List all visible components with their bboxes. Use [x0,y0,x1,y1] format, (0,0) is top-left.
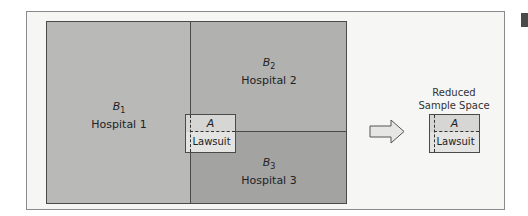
region-b3-symbol: B3 [209,156,329,174]
event-a-lower: Lawsuit [186,132,235,152]
event-a-symbol: A [186,115,235,132]
region-b1-symbol: B1 [59,100,179,118]
page-edge-tab [521,13,528,27]
right-arrow-icon [369,119,405,144]
reduced-sample-space-title: Reduced Sample Space [404,86,504,112]
region-b1-label: B1 Hospital 1 [59,100,179,132]
dashed-divider-horizontal [190,131,235,132]
region-b2-symbol: B2 [209,56,329,74]
reduced-dashed-divider-horizontal [434,131,479,132]
reduced-dashed-divider-vertical [434,115,435,152]
b2-b3-divider [235,131,346,132]
region-b1-name: Hospital 1 [91,118,146,131]
region-b3-label: B3 Hospital 3 [209,156,329,188]
region-b2-name: Hospital 2 [241,74,296,87]
reduced-title-line1: Reduced [404,86,504,99]
reduced-a-symbol: A [430,115,479,132]
region-b1-hospital-1: B1 Hospital 1 [47,22,191,203]
sample-space: B1 Hospital 1 B2 Hospital 2 B3 Hospital … [46,21,347,204]
region-b2-label: B2 Hospital 2 [209,56,329,88]
region-b3-name: Hospital 3 [241,174,296,187]
event-a-lawsuit-box: Lawsuit A [185,114,236,153]
reduced-a-lower: Lawsuit [430,132,479,152]
reduced-title-line2: Sample Space [404,99,504,112]
reduced-lawsuit-box: Lawsuit A [429,114,480,153]
dashed-divider-vertical [190,115,191,152]
